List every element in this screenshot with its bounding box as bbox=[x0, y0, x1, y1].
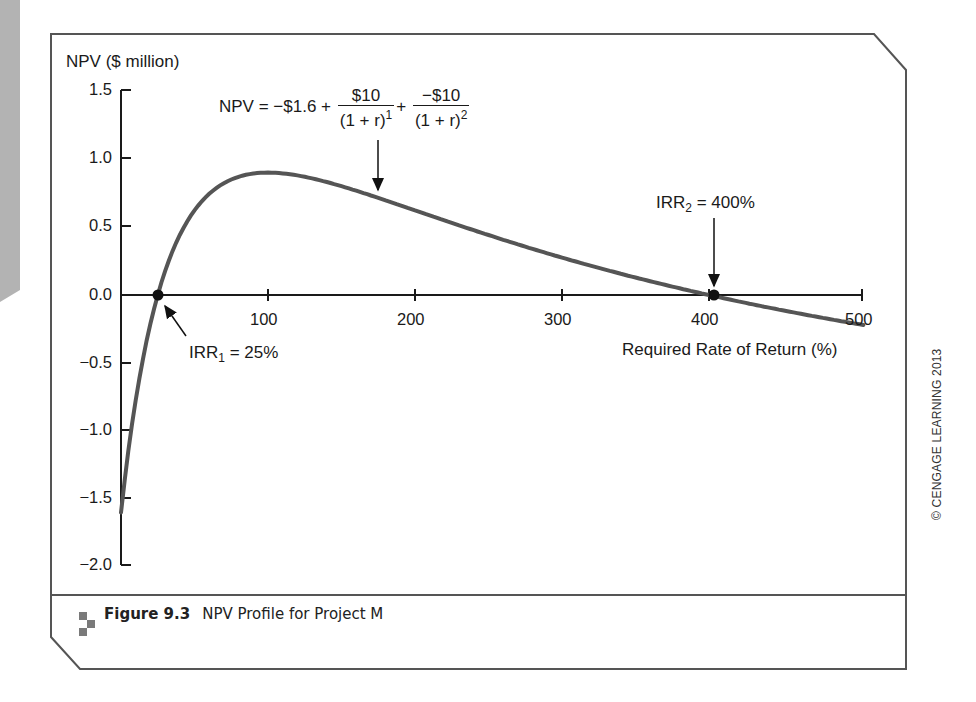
y-tick-label: −1.5 bbox=[79, 488, 112, 507]
y-tick-label: −1.0 bbox=[79, 420, 112, 439]
y-tick-label: 0.5 bbox=[89, 216, 112, 235]
x-axis bbox=[121, 289, 862, 301]
formula-lhs: NPV = −$1.6 + bbox=[219, 97, 331, 116]
figure-title: NPV Profile for Project M bbox=[202, 605, 383, 623]
figure-caption: Figure 9.3NPV Profile for Project M bbox=[104, 605, 383, 623]
figure-icon bbox=[79, 612, 95, 636]
y-tick-label: 0.0 bbox=[89, 285, 112, 304]
y-tick-label: −0.5 bbox=[79, 353, 112, 372]
x-axis-label: Required Rate of Return (%) bbox=[622, 340, 837, 360]
x-tick-label: 500 bbox=[845, 310, 873, 329]
x-tick-label: 200 bbox=[397, 310, 425, 329]
irr1-arrow bbox=[165, 306, 186, 336]
npv-formula: NPV = −$1.6 + $10 (1 + r)1 + −$10 (1 + r… bbox=[219, 86, 471, 130]
x-tick-label: 100 bbox=[250, 310, 278, 329]
formula-term2: −$10 (1 + r)2 bbox=[413, 86, 470, 130]
copyright-credit: © CENGAGE LEARNING 2013 bbox=[930, 349, 944, 521]
irr1-label: IRR1 = 25% bbox=[189, 343, 278, 365]
formula-term1: $10 (1 + r)1 bbox=[338, 86, 395, 130]
x-tick-label: 300 bbox=[544, 310, 572, 329]
y-tick-label: 1.0 bbox=[89, 148, 112, 167]
irr2-point bbox=[709, 290, 720, 301]
y-axis-label: NPV ($ million) bbox=[66, 52, 179, 72]
irr1-point bbox=[153, 290, 164, 301]
y-tick-label: −2.0 bbox=[79, 555, 112, 574]
figure-number: Figure 9.3 bbox=[104, 605, 190, 623]
x-tick-label: 400 bbox=[691, 310, 719, 329]
y-tick-label: 1.5 bbox=[89, 80, 112, 99]
irr2-label: IRR2 = 400% bbox=[656, 193, 755, 215]
